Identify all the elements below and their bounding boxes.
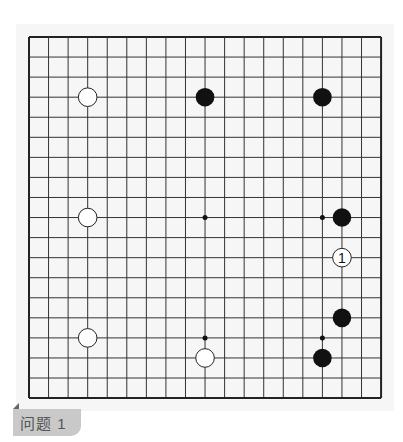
white-stone[interactable]: [78, 88, 97, 107]
star-point: [320, 335, 325, 340]
move-number: 1: [338, 250, 346, 266]
black-stone[interactable]: [333, 309, 352, 328]
white-stone[interactable]: [196, 349, 215, 368]
problem-label: 问题 1: [13, 409, 81, 436]
star-point: [203, 335, 208, 340]
star-point: [320, 215, 325, 220]
problem-title: 问题 1: [13, 409, 81, 436]
black-stone[interactable]: [196, 88, 215, 107]
black-stone[interactable]: [313, 88, 332, 107]
white-stone[interactable]: [78, 208, 97, 227]
white-stone[interactable]: 1: [333, 248, 352, 267]
star-point: [203, 215, 208, 220]
white-stone[interactable]: [78, 329, 97, 348]
black-stone[interactable]: [313, 349, 332, 368]
go-board[interactable]: 1: [0, 0, 403, 442]
black-stone[interactable]: [333, 208, 352, 227]
